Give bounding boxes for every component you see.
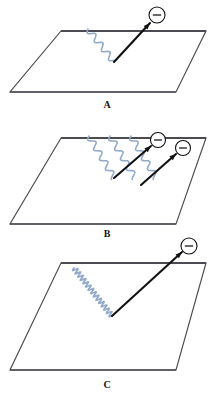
metal-surface-c bbox=[10, 263, 206, 370]
panel-label-b: B bbox=[104, 228, 111, 239]
photoelectric-effect-figure: ABC bbox=[0, 0, 217, 402]
metal-surface-a bbox=[10, 31, 206, 92]
photon-wave-b-2 bbox=[109, 136, 135, 180]
electron-arrow-a-1-shaft bbox=[114, 23, 150, 62]
panel-label-a: A bbox=[103, 99, 111, 110]
panel-a: A bbox=[10, 7, 206, 110]
photon-wave-c-1 bbox=[73, 268, 113, 317]
panel-c: C bbox=[10, 238, 206, 390]
panel-b: B bbox=[10, 133, 206, 240]
photon-wave-a-1 bbox=[87, 29, 116, 61]
electron-arrow-b-2-shaft bbox=[141, 154, 176, 185]
panel-label-c: C bbox=[103, 379, 110, 390]
figure-canvas: ABC bbox=[0, 0, 217, 402]
electron-arrow-c-1-shaft bbox=[112, 252, 182, 316]
photon-wave-b-1 bbox=[88, 136, 114, 180]
